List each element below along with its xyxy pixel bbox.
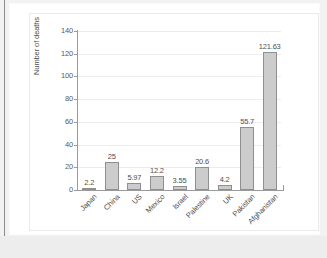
x-axis-end-tick bbox=[283, 185, 284, 191]
bar-value-label: 2.2 bbox=[69, 179, 109, 187]
y-tick-label: 20 bbox=[65, 163, 73, 171]
gridline bbox=[78, 76, 281, 77]
y-tick-label: 0 bbox=[69, 186, 73, 194]
bar-value-label: 4.2 bbox=[205, 176, 245, 184]
gridline bbox=[78, 54, 281, 55]
bar bbox=[127, 183, 141, 190]
y-tick-label: 40 bbox=[65, 141, 73, 149]
bar-value-label: 5.97 bbox=[114, 174, 154, 182]
bar-value-label: 55.7 bbox=[227, 118, 267, 126]
y-tick-label: 100 bbox=[61, 72, 73, 80]
bar-value-label: 12.2 bbox=[137, 167, 177, 175]
bar-value-label: 20.6 bbox=[182, 158, 222, 166]
y-tick-label: 80 bbox=[65, 95, 73, 103]
scanned-page: Number of deaths 020406080100120140 2.22… bbox=[0, 0, 327, 258]
bar bbox=[82, 188, 96, 190]
bar-chart: Number of deaths 020406080100120140 2.22… bbox=[0, 0, 327, 258]
bar-value-label: 3.55 bbox=[160, 177, 200, 185]
gridline bbox=[78, 31, 281, 32]
y-tick-label: 60 bbox=[65, 118, 73, 126]
y-tick-label: 140 bbox=[61, 27, 73, 35]
y-axis-title: Number of deaths bbox=[33, 0, 41, 75]
bar-value-label: 121.63 bbox=[250, 43, 290, 51]
bar bbox=[218, 185, 232, 190]
gridline bbox=[78, 99, 281, 100]
bar-value-label: 25 bbox=[92, 153, 132, 161]
bar bbox=[173, 186, 187, 190]
y-tick-label: 120 bbox=[61, 50, 73, 58]
plot-area bbox=[78, 31, 281, 190]
x-axis-spine bbox=[77, 190, 284, 191]
